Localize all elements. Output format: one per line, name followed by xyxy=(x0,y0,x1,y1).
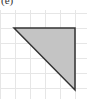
grid-diagram xyxy=(0,0,87,99)
